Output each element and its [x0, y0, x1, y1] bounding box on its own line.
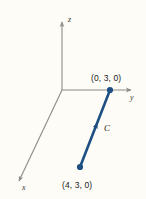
start-point-label: (0, 3, 0) [91, 73, 121, 83]
z-axis-label: z [67, 15, 72, 24]
coordinate-diagram: z y x (0, 3, 0) (4, 3, 0) C [0, 0, 146, 199]
y-axis-label: y [129, 93, 134, 102]
end-point-label: (4, 3, 0) [62, 180, 92, 190]
endpoint-dot-start [107, 87, 113, 93]
x-axis [19, 90, 62, 181]
curve-label-c: C [104, 123, 111, 133]
diagram-canvas: z y x (0, 3, 0) (4, 3, 0) C [0, 0, 146, 199]
x-axis-label: x [21, 183, 26, 192]
endpoint-dot-end [77, 164, 83, 170]
